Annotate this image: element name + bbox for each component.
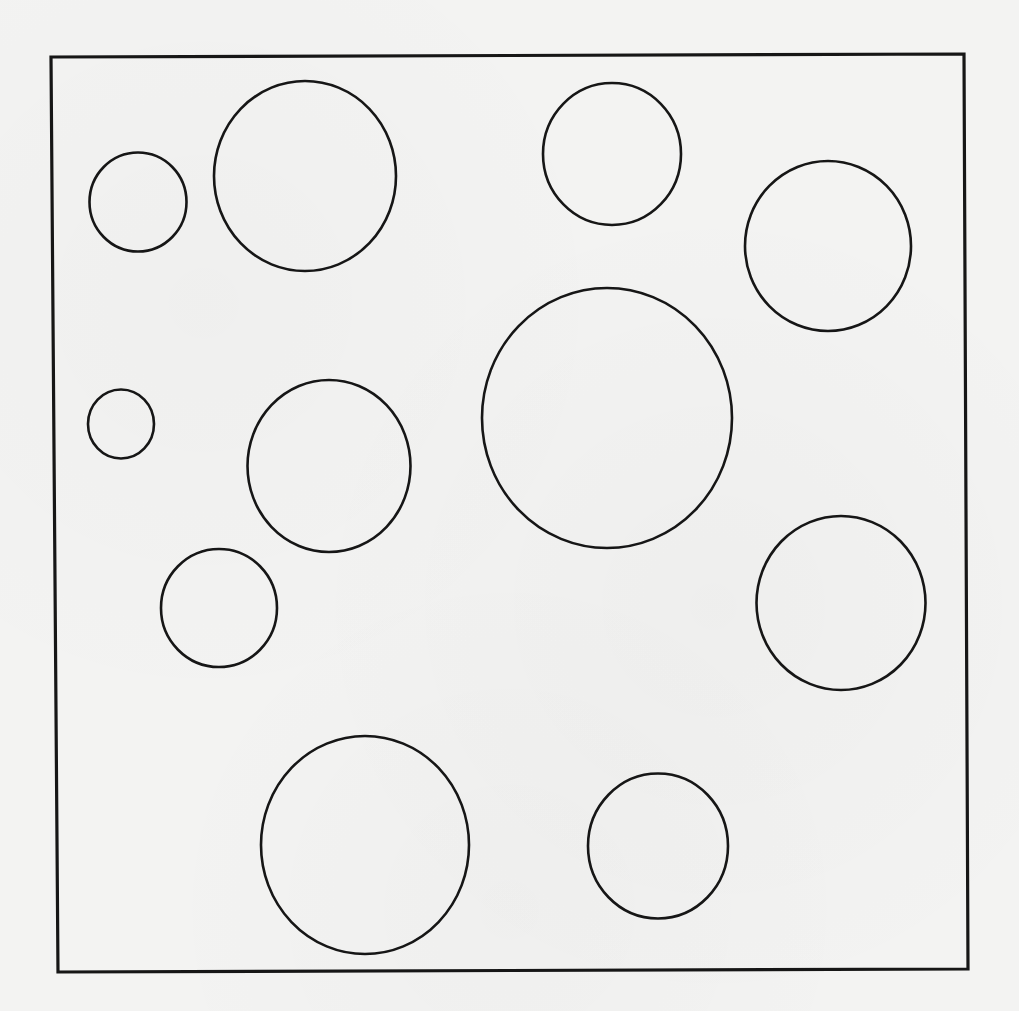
circle-shape [261, 736, 469, 954]
circle-shape [482, 288, 732, 548]
circle-shape [248, 380, 411, 552]
circle-shape [588, 774, 728, 919]
circle-shape [543, 83, 681, 225]
circle-shape [745, 161, 911, 331]
square-frame [51, 54, 968, 972]
circles-group [88, 81, 926, 954]
circle-shape [90, 153, 187, 252]
diagram-canvas [0, 0, 1019, 1011]
circle-shape [214, 81, 396, 271]
circles-diagram [0, 0, 1019, 1011]
circle-shape [757, 516, 926, 690]
circle-shape [161, 549, 277, 667]
circle-shape [88, 390, 154, 459]
